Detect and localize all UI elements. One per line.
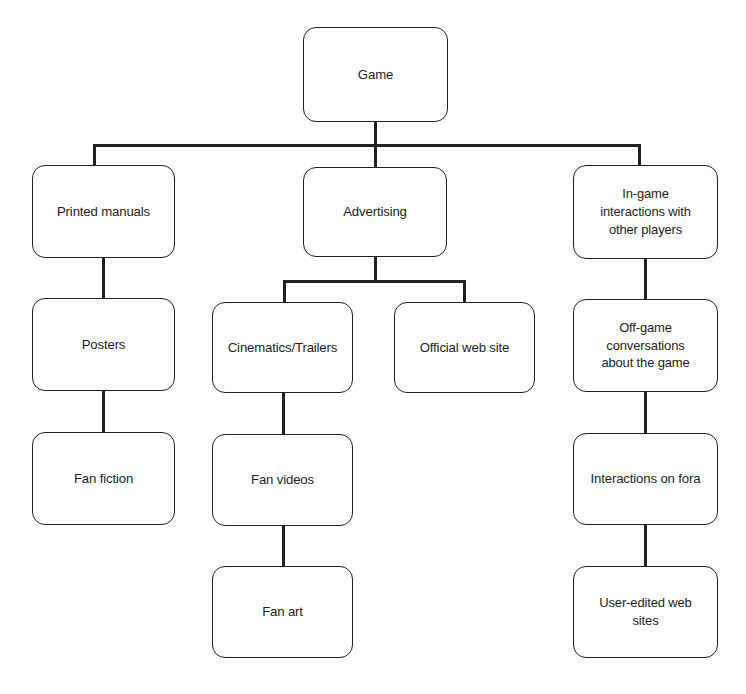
node-label-advertising: Advertising (337, 203, 413, 220)
node-fan-art[interactable]: Fan art (212, 566, 353, 658)
node-label-fan-videos: Fan videos (245, 471, 320, 488)
node-posters[interactable]: Posters (32, 298, 175, 391)
node-label-game: Game (352, 66, 399, 83)
node-cinematics-trailers[interactable]: Cinematics/Trailers (212, 302, 353, 393)
node-user-edited-web-sites[interactable]: User-edited web sites (573, 566, 718, 658)
node-official-web-site[interactable]: Official web site (394, 302, 535, 393)
node-label-printed-manuals: Printed manuals (51, 203, 156, 220)
node-label-user-edited-web-sites: User-edited web sites (593, 594, 697, 630)
node-label-in-game-interactions: In-game interactions with other players (594, 185, 697, 239)
node-off-game-conversations[interactable]: Off-game conversations about the game (573, 299, 718, 392)
node-fan-videos[interactable]: Fan videos (212, 434, 353, 526)
node-printed-manuals[interactable]: Printed manuals (32, 165, 175, 258)
node-label-cinematics-trailers: Cinematics/Trailers (222, 339, 344, 356)
node-fan-fiction[interactable]: Fan fiction (32, 432, 175, 525)
node-label-off-game-conversations: Off-game conversations about the game (595, 319, 695, 373)
node-in-game-interactions[interactable]: In-game interactions with other players (573, 165, 718, 259)
node-advertising[interactable]: Advertising (303, 167, 447, 257)
node-label-fan-art: Fan art (256, 603, 309, 620)
node-label-posters: Posters (76, 336, 132, 353)
node-label-official-web-site: Official web site (414, 339, 516, 356)
node-label-fan-fiction: Fan fiction (68, 470, 139, 487)
diagram-canvas: GamePrinted manualsAdvertisingIn-game in… (0, 0, 746, 694)
node-label-interactions-on-fora: Interactions on fora (585, 470, 707, 487)
node-game[interactable]: Game (303, 27, 448, 122)
node-interactions-on-fora[interactable]: Interactions on fora (573, 433, 718, 525)
